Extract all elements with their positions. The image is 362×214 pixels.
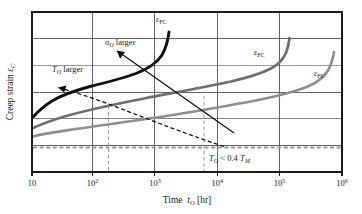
- x-tick-label-3: 104: [211, 178, 223, 189]
- y-axis-title: Creep strain εC: [5, 63, 16, 120]
- x-axis-tick-labels: 10 102 103 104 105 106: [28, 178, 348, 189]
- annotation-temperature-larger: TO larger: [52, 64, 83, 75]
- x-tick-label-5: 106: [336, 178, 348, 189]
- x-tick-label-0: 10: [28, 178, 37, 188]
- x-axis-title: Time tO [hr]: [163, 195, 211, 206]
- chart-svg: 10 102 103 104 105 106 Time tO [hr] Cree…: [0, 0, 362, 214]
- x-tick-label-4: 105: [274, 178, 286, 189]
- x-tick-label-2: 103: [149, 178, 161, 189]
- creep-strain-chart-figure: 10 102 103 104 105 106 Time tO [hr] Cree…: [0, 0, 362, 214]
- x-tick-label-1: 102: [87, 178, 99, 189]
